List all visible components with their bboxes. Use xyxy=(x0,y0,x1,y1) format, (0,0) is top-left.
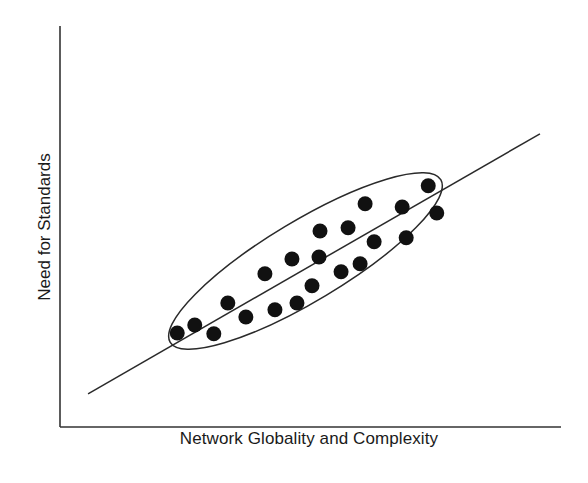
data-point xyxy=(220,296,235,311)
data-point xyxy=(312,250,327,265)
data-point xyxy=(353,256,368,271)
data-point xyxy=(284,252,299,267)
data-point xyxy=(313,224,328,239)
data-point xyxy=(187,318,202,333)
data-points xyxy=(170,178,445,341)
data-point xyxy=(429,206,444,221)
data-point xyxy=(267,302,282,317)
trend-line xyxy=(88,134,540,394)
data-point xyxy=(341,220,356,235)
data-point xyxy=(367,234,382,249)
data-point xyxy=(170,326,185,341)
data-point xyxy=(289,296,304,311)
data-point xyxy=(334,264,349,279)
data-point xyxy=(358,196,373,211)
data-point xyxy=(257,266,272,281)
cluster-ellipse xyxy=(150,145,462,376)
data-point xyxy=(206,326,221,341)
data-point xyxy=(305,278,320,293)
data-point xyxy=(399,230,414,245)
y-axis-label: Need for Standards xyxy=(35,153,55,300)
x-axis-label: Network Globality and Complexity xyxy=(0,429,588,449)
scatter-chart xyxy=(0,0,588,483)
data-point xyxy=(395,200,410,215)
data-point xyxy=(421,178,436,193)
data-point xyxy=(238,310,253,325)
